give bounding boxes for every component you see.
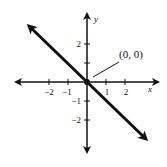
x-tick-label: −1 [62,87,72,97]
y-tick-label: −2 [71,115,81,125]
x-tick-label: 2 [124,87,129,97]
origin-annotation: (0, 0) [119,48,143,61]
x-axis-label: x [147,84,152,94]
y-tick-label: −1 [71,96,81,106]
x-tick-label: −2 [44,87,54,97]
x-tick-label: 1 [105,87,110,97]
graph-figure: −2 −1 1 2 2 −1 −2 x y (0, 0) [0,0,167,167]
y-tick-label: 2 [77,39,82,49]
y-axis-label: y [93,14,98,24]
coordinate-plane: −2 −1 1 2 2 −1 −2 x y (0, 0) [0,0,167,167]
origin-point [84,79,90,85]
annotation-leader-line [93,62,119,77]
